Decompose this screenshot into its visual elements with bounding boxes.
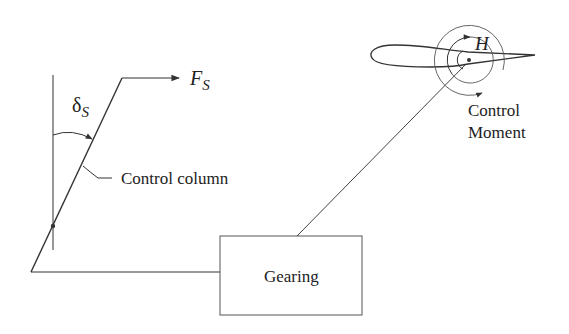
deflection-label: δS [72, 94, 89, 120]
diagram-canvas: FS δS H Control column Gearing Control M… [0, 0, 569, 334]
hinge-moment-label: H [474, 33, 490, 54]
control-column-leader [83, 166, 112, 178]
gearing-label: Gearing [264, 267, 319, 286]
control-column-label: Control column [121, 169, 229, 188]
control-moment-label-line1: Control [468, 101, 520, 120]
gearing-to-surface-link [297, 64, 466, 236]
airfoil [371, 45, 535, 67]
force-label: FS [189, 67, 210, 93]
deflection-angle-arc [53, 132, 92, 139]
control-moment-label-line2: Moment [468, 123, 526, 142]
pivot-point [51, 224, 55, 228]
hinge-point [467, 58, 471, 62]
